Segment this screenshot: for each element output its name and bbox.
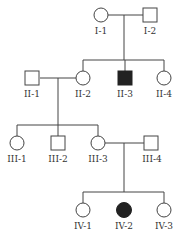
affected-female-symbol-IV-2 (117, 203, 132, 218)
label-III-4: III-4 (142, 154, 162, 164)
female-symbol-III-3 (91, 136, 105, 150)
label-III-3: III-3 (88, 154, 108, 164)
label-III-1: III-1 (7, 154, 26, 164)
male-symbol-II-1 (25, 71, 39, 85)
label-III-2: III-2 (48, 154, 67, 164)
female-symbol-IV-1 (76, 203, 90, 217)
label-I-1: I-1 (95, 26, 107, 36)
label-I-2: I-2 (144, 26, 156, 36)
label-II-4: II-4 (156, 89, 172, 99)
label-II-3: II-3 (117, 89, 133, 99)
label-IV-2: IV-2 (115, 221, 133, 231)
label-IV-3: IV-3 (155, 221, 173, 231)
pedigree-chart: I-1 I-2 II-1 II-2 II-3 II-4 III-1 III-2 … (0, 0, 187, 237)
female-symbol-I-1 (94, 8, 108, 22)
female-symbol-III-1 (10, 136, 24, 150)
male-symbol-I-2 (143, 8, 157, 22)
male-symbol-III-4 (144, 136, 158, 150)
label-IV-1: IV-1 (74, 221, 92, 231)
label-II-2: II-2 (75, 89, 91, 99)
female-symbol-II-2 (76, 71, 90, 85)
female-symbol-II-4 (157, 71, 171, 85)
female-symbol-IV-3 (157, 203, 171, 217)
affected-male-symbol-II-3 (118, 71, 132, 85)
label-II-1: II-1 (24, 89, 40, 99)
male-symbol-III-2 (51, 136, 65, 150)
